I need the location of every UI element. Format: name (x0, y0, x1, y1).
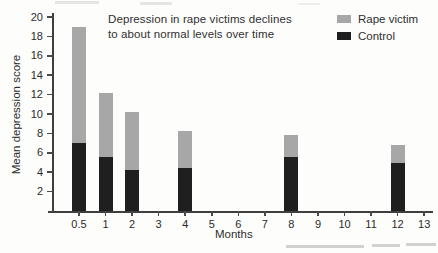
legend-item-control: Control (337, 27, 418, 44)
x-tick-label: 8 (277, 218, 305, 230)
x-tick-mark (344, 211, 346, 216)
x-tick-mark (264, 211, 266, 216)
scan-artifact (298, 3, 320, 5)
y-tick-label: 4 (17, 166, 43, 178)
legend-item-rape-victim: Rape victim (337, 10, 418, 27)
y-tick-label: 14 (17, 69, 43, 81)
y-tick-label: 8 (17, 127, 43, 139)
x-tick-mark (158, 211, 160, 216)
chart-legend: Rape victim Control (337, 10, 418, 44)
textbook-figure: Depression in rape victims declines to a… (0, 0, 438, 253)
control-bar (178, 168, 192, 211)
x-tick-label: 9 (304, 218, 332, 230)
y-tick-label: 10 (17, 108, 43, 120)
control-bar (72, 143, 86, 211)
x-tick-mark (238, 211, 240, 216)
y-tick-mark (47, 152, 53, 154)
x-tick-label: 11 (357, 218, 385, 230)
control-bar (99, 157, 113, 211)
y-tick-mark (47, 16, 53, 18)
x-tick-label: 7 (251, 218, 279, 230)
x-tick-mark (131, 211, 133, 216)
scan-artifact (55, 1, 99, 4)
y-tick-mark (47, 55, 53, 57)
x-tick-mark (423, 211, 425, 216)
x-tick-label: 12 (384, 218, 412, 230)
x-tick-mark (397, 211, 399, 216)
x-tick-label: 4 (171, 218, 199, 230)
x-tick-label: 2 (118, 218, 146, 230)
x-tick-label: 6 (224, 218, 252, 230)
annotation-line-1: Depression in rape victims declines (108, 12, 292, 27)
x-tick-label: 1 (92, 218, 120, 230)
scan-artifact-caption (406, 243, 436, 246)
y-tick-mark (47, 191, 53, 193)
x-tick-mark (291, 211, 293, 216)
chart-annotation: Depression in rape victims declines to a… (108, 12, 292, 41)
legend-label-rape-victim: Rape victim (358, 13, 418, 25)
control-bar (125, 170, 139, 211)
x-tick-mark (78, 211, 80, 216)
x-tick-mark (317, 211, 319, 216)
x-tick-label: 0.5 (65, 218, 93, 230)
control-bar (284, 157, 298, 211)
y-tick-label: 18 (17, 30, 43, 42)
rape-victim-swatch-icon (337, 15, 351, 23)
x-tick-mark (105, 211, 107, 216)
y-tick-label: 2 (17, 185, 43, 197)
y-tick-mark (47, 113, 53, 115)
x-tick-label: 10 (331, 218, 359, 230)
y-tick-label: 20 (17, 11, 43, 23)
y-tick-mark (47, 171, 53, 173)
legend-label-control: Control (358, 30, 395, 42)
x-tick-mark (370, 211, 372, 216)
y-tick-mark (47, 94, 53, 96)
x-tick-label: 5 (198, 218, 226, 230)
y-tick-mark (47, 36, 53, 38)
control-swatch-icon (337, 32, 351, 40)
scan-artifact-caption (372, 244, 400, 247)
x-tick-label: 13 (410, 218, 438, 230)
y-tick-mark (47, 133, 53, 135)
x-tick-mark (184, 211, 186, 216)
annotation-line-2: to about normal levels over time (108, 27, 292, 42)
x-tick-label: 3 (145, 218, 173, 230)
y-tick-label: 6 (17, 146, 43, 158)
y-tick-mark (47, 74, 53, 76)
y-tick-label: 16 (17, 49, 43, 61)
x-tick-mark (211, 211, 213, 216)
y-tick-label: 12 (17, 88, 43, 100)
control-bar (391, 163, 405, 211)
scan-artifact-caption (286, 245, 364, 248)
scan-artifact (140, 2, 172, 5)
